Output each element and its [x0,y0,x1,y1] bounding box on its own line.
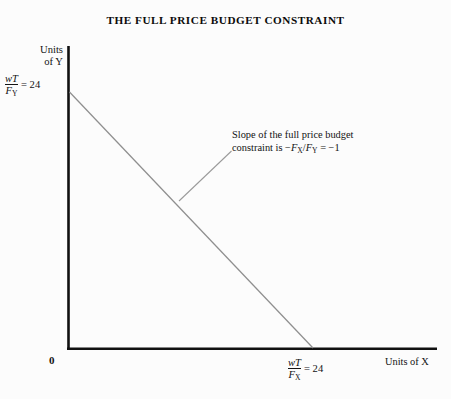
origin-label: 0 [49,354,55,366]
y-intercept-fraction: wT FY [4,73,19,96]
plot-canvas [0,0,451,399]
y-axis-label-line2: of Y [44,56,63,67]
y-intercept-equals: = 24 [20,78,40,91]
y-intercept-label: wT FY = 24 [4,73,40,96]
slope-annotation-prefix: constraint is [232,142,285,153]
y-axis-label-line1: Units [40,44,63,55]
y-intercept-denominator-subscript: Y [12,89,17,98]
x-intercept-fraction: wT FX [287,357,302,380]
slope-annotation-line2: constraint is −FX/FY = −1 [232,141,353,154]
slope-annotation: Slope of the full price budget constrain… [232,128,353,154]
slope-annotation-line1: Slope of the full price budget [232,128,353,141]
y-axis-label: Units of Y [0,44,63,68]
x-axis-label: Units of X [385,356,429,368]
slope-annotation-suffix: = −1 [318,142,340,153]
x-intercept-numerator: wT [287,357,302,368]
y-intercept-denominator: FY [5,84,19,96]
annotation-leader-line [179,151,232,201]
x-intercept-denominator-subscript: X [295,373,300,382]
x-intercept-equals: = 24 [303,362,323,375]
x-intercept-label: wT FX = 24 [287,357,323,380]
x-intercept-denominator: FX [288,368,302,380]
figure-container: THE FULL PRICE BUDGET CONSTRAINT Units o… [0,0,451,399]
y-intercept-numerator: wT [4,73,19,84]
